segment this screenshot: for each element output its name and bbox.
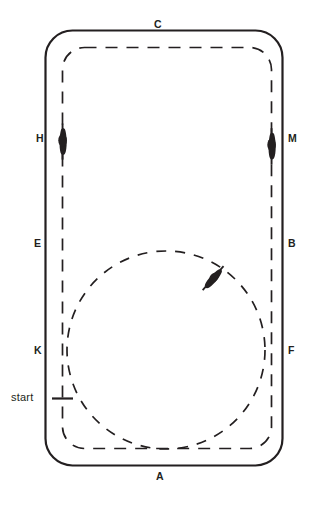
arena-marker-c: C — [154, 19, 162, 30]
twenty-metre-circle — [67, 251, 265, 449]
arena-marker-a: A — [156, 471, 164, 482]
arena-outer-boundary — [46, 31, 283, 466]
arena-marker-e: E — [34, 238, 41, 249]
horse-rider-icon-circle — [200, 264, 227, 293]
arena-marker-b: B — [288, 238, 296, 249]
arena-marker-h: H — [36, 133, 44, 144]
horse-rider-icon-m — [267, 128, 276, 164]
horse-rider-icon-h — [58, 124, 67, 160]
dressage-arena-figure: C M B F A K E H start — [0, 0, 311, 508]
start-label: start — [11, 392, 33, 403]
arena-marker-k: K — [34, 345, 42, 356]
arena-inner-track — [63, 48, 272, 449]
arena-marker-f: F — [288, 345, 295, 356]
arena-svg-canvas — [0, 0, 311, 508]
arena-marker-m: M — [288, 133, 297, 144]
